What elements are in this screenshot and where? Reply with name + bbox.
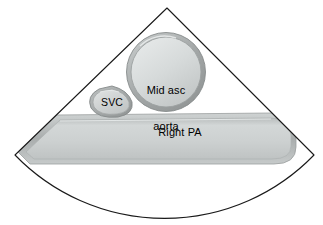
label-mid-asc-aorta-line1: Mid asc bbox=[126, 84, 206, 96]
label-mid-asc-aorta: Mid asc aorta bbox=[126, 60, 206, 156]
label-svc: SVC bbox=[90, 96, 134, 108]
label-right-pa: Right PA bbox=[135, 126, 225, 138]
figure-canvas: Mid asc aorta SVC Right PA bbox=[0, 0, 323, 225]
